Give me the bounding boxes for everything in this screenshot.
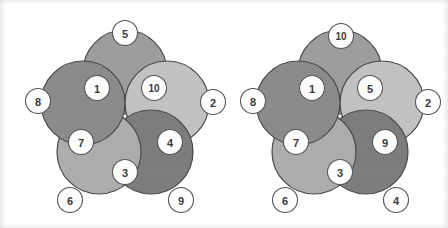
- right-rosette-node-5[interactable]: 5: [358, 76, 383, 101]
- left-rosette-node-5[interactable]: 5: [113, 21, 138, 46]
- left-rosette-node-8[interactable]: 8: [26, 89, 51, 114]
- node-label: 7: [293, 137, 299, 149]
- left-rosette: 52968110437: [26, 21, 226, 213]
- right-rosette-node-2[interactable]: 2: [416, 90, 441, 115]
- right-rosette: 10246815937: [241, 24, 441, 213]
- node-label: 6: [67, 195, 73, 207]
- right-rosette-node-8[interactable]: 8: [241, 89, 266, 114]
- node-label: 10: [335, 31, 347, 42]
- node-label: 1: [309, 83, 315, 95]
- diagram-canvas: 5296811043710246815937: [0, 0, 448, 228]
- node-label: 2: [210, 97, 216, 109]
- node-label: 2: [425, 97, 431, 109]
- right-rosette-node-6[interactable]: 6: [273, 188, 298, 213]
- node-label: 8: [35, 96, 41, 108]
- node-label: 4: [167, 137, 174, 149]
- node-label: 1: [94, 83, 100, 95]
- left-rosette-node-1[interactable]: 1: [85, 76, 110, 101]
- node-label: 5: [122, 28, 128, 40]
- left-rosette-node-7[interactable]: 7: [69, 130, 94, 155]
- left-rosette-node-3[interactable]: 3: [113, 160, 138, 185]
- right-rosette-node-3[interactable]: 3: [328, 160, 353, 185]
- left-rosette-node-9[interactable]: 9: [169, 188, 194, 213]
- right-rosette-node-7[interactable]: 7: [284, 130, 309, 155]
- left-rosette-node-6[interactable]: 6: [58, 188, 83, 213]
- right-rosette-node-1[interactable]: 1: [300, 76, 325, 101]
- node-label: 9: [178, 195, 184, 207]
- node-label: 6: [282, 195, 288, 207]
- node-label: 3: [337, 167, 343, 179]
- node-label: 10: [148, 83, 160, 94]
- right-rosette-node-9[interactable]: 9: [373, 130, 398, 155]
- rosette-diagram-svg: 5296811043710246815937: [0, 0, 448, 228]
- node-label: 4: [393, 195, 400, 207]
- node-label: 8: [250, 96, 256, 108]
- left-rosette-node-4[interactable]: 4: [158, 130, 183, 155]
- node-label: 3: [122, 167, 128, 179]
- node-label: 5: [367, 83, 373, 95]
- node-label: 7: [78, 137, 84, 149]
- left-rosette-node-10[interactable]: 10: [142, 76, 167, 101]
- right-rosette-node-10[interactable]: 10: [329, 24, 354, 49]
- right-rosette-node-4[interactable]: 4: [384, 188, 409, 213]
- left-rosette-node-2[interactable]: 2: [201, 90, 226, 115]
- node-label: 9: [382, 137, 388, 149]
